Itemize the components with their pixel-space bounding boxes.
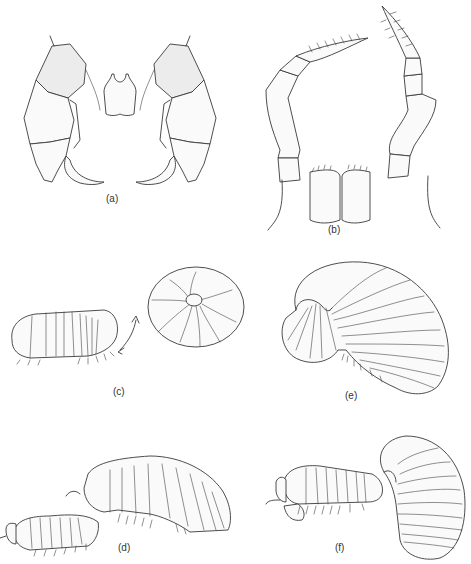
- isopod-rolling-illustration: [0, 260, 250, 410]
- panel-label-a: (a): [106, 193, 118, 204]
- panel-d: (d): [0, 430, 240, 564]
- panel-e: (e): [260, 250, 471, 410]
- antennae-illustration: [240, 0, 471, 250]
- panel-label-c: (c): [113, 386, 125, 397]
- panel-label-f: (f): [335, 542, 344, 553]
- isopod-pair-f-illustration: [240, 430, 471, 564]
- panel-c: (c): [0, 260, 250, 410]
- panel-a: (a): [0, 0, 240, 215]
- claw-appendages-illustration: [0, 0, 240, 215]
- isopod-partially-rolled-illustration: [260, 250, 471, 410]
- panel-label-e: (e): [345, 390, 357, 401]
- panel-f: (f): [240, 430, 471, 564]
- figure-plate: (a) (b): [0, 0, 471, 564]
- panel-b: (b): [240, 0, 471, 250]
- panel-label-b: (b): [328, 224, 340, 235]
- panel-label-d: (d): [118, 542, 130, 553]
